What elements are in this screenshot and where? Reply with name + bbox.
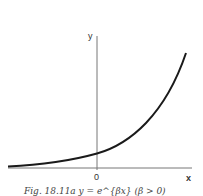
exponential-growth-diagram [0, 0, 203, 196]
y-axis-label: y [88, 32, 93, 41]
figure-caption: Fig. 18.11a y = e^{βx} (β > 0) [24, 186, 166, 196]
x-axis-label: x [186, 174, 191, 183]
origin-label: 0 [94, 173, 99, 182]
